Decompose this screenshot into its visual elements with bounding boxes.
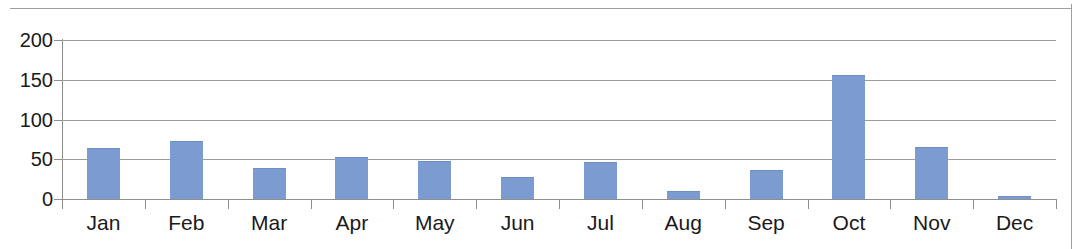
x-axis-tick-label: Nov [890,212,973,233]
x-axis-tick-label: Oct [808,212,891,233]
y-axis-tick-label: 200 [20,30,53,50]
bar[interactable] [501,177,534,199]
bar-slot [228,40,311,199]
bar-slot [890,40,973,199]
x-axis-tick-label: Jan [62,212,145,233]
y-axis-tick [54,159,62,160]
bar-slot [62,40,145,199]
x-axis-tick [559,200,560,209]
bar[interactable] [253,168,286,199]
x-axis-tick [62,200,63,209]
x-axis-tick [393,200,394,209]
x-axis-tick [145,200,146,209]
x-axis-tick [642,200,643,209]
x-axis-tick-label: May [393,212,476,233]
bar-slot [642,40,725,199]
y-axis-tick-labels: 050100150200 [0,0,53,249]
y-axis-tick-label: 50 [31,149,53,169]
x-axis-tick [311,200,312,209]
y-axis-tick-label: 0 [42,189,53,209]
scanned-page: 050100150200 JanFebMarAprMayJunJulAugSep… [0,0,1081,249]
x-axis-tick-label: Apr [311,212,394,233]
x-axis-tick-label: Aug [642,212,725,233]
x-axis-tick [808,200,809,209]
bar[interactable] [170,141,203,199]
bar-slot [145,40,228,199]
bar[interactable] [750,170,783,199]
x-axis-tick [890,200,891,209]
bar-slot [311,40,394,199]
bar-series [62,40,1056,199]
bar-chart-figure: 050100150200 JanFebMarAprMayJunJulAugSep… [0,0,1081,249]
x-axis-tick-label: Sep [725,212,808,233]
y-axis-tick-label: 150 [20,70,53,90]
x-axis-tick-label: Jul [559,212,642,233]
bar[interactable] [418,161,451,199]
x-axis-tick-label: Jun [476,212,559,233]
bar-slot [725,40,808,199]
y-axis-tick [54,40,62,41]
x-axis-tick [973,200,974,209]
bar-slot [808,40,891,199]
bar[interactable] [915,147,948,199]
y-axis-tick [54,199,62,200]
x-axis-tick-label: Feb [145,212,228,233]
bar-slot [559,40,642,199]
bar[interactable] [87,148,120,199]
x-axis-tick [476,200,477,209]
y-axis-tick [54,120,62,121]
bar[interactable] [584,162,617,199]
y-axis-tick-label: 100 [20,110,53,130]
plot-area [62,40,1056,199]
y-axis-tick [54,80,62,81]
bar-slot [476,40,559,199]
x-axis-tick [1056,200,1057,209]
x-axis-tick-label: Mar [228,212,311,233]
bar-slot [973,40,1056,199]
x-axis-tick-label: Dec [973,212,1056,233]
bar[interactable] [667,191,700,199]
bar[interactable] [832,75,865,199]
bar-slot [393,40,476,199]
x-axis-tick [228,200,229,209]
bar[interactable] [335,157,368,199]
x-axis-tick [725,200,726,209]
